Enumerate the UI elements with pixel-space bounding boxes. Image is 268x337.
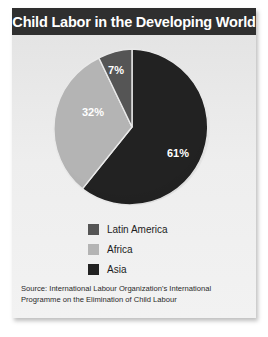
source-note-line-1: Source: International Labour Organizatio… — [21, 284, 249, 295]
pie-label-asia: 61% — [167, 147, 189, 159]
pie-chart: 61% 32% 7% — [38, 41, 226, 213]
legend-item-latin-america: Latin America — [88, 221, 238, 238]
pie-label-africa: 32% — [82, 106, 104, 118]
pie-shading — [54, 49, 210, 205]
pie-label-latin-america: 7% — [108, 64, 124, 76]
legend-item-asia: Asia — [88, 261, 238, 278]
source-note-line-2: Programme on the Elimination of Child La… — [21, 295, 249, 306]
legend-item-africa: Africa — [88, 241, 238, 258]
chart-title-bar: Child Labor in the Developing World — [12, 8, 256, 35]
legend-swatch-latin-america — [88, 224, 99, 235]
chart-body: 61% 32% 7% Latin America Africa Asia — [12, 35, 256, 318]
chart-card: Child Labor in the Developing World — [12, 8, 256, 318]
legend-label-latin-america: Latin America — [107, 224, 168, 235]
legend-label-asia: Asia — [107, 264, 126, 275]
legend-swatch-africa — [88, 244, 99, 255]
page-background: Child Labor in the Developing World — [0, 0, 268, 337]
page-title: Child Labor in the Developing World — [12, 14, 255, 30]
legend-swatch-asia — [88, 264, 99, 275]
chart-legend: Latin America Africa Asia — [88, 221, 238, 281]
pie-chart-svg: 61% 32% 7% — [38, 41, 226, 213]
source-note: Source: International Labour Organizatio… — [21, 284, 249, 305]
legend-label-africa: Africa — [107, 244, 133, 255]
